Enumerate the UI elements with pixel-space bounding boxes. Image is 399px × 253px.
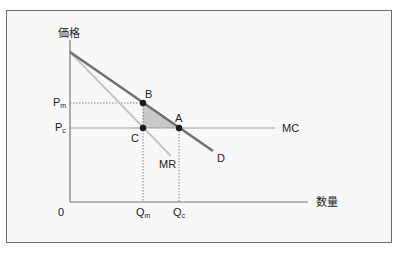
point-b [140, 100, 146, 106]
monopoly-diagram: B A C MC MR D 価格 数量 0 Pm Pc Qm Qc [0, 0, 399, 253]
point-a [176, 125, 182, 131]
label-point-b: B [145, 88, 152, 100]
label-mc: MC [282, 122, 299, 134]
label-point-c: C [131, 132, 139, 144]
x-axis-label: 数量 [316, 196, 338, 209]
y-axis-label: 価格 [58, 26, 80, 40]
label-pm: Pm [53, 96, 66, 109]
label-d: D [217, 152, 225, 164]
origin-label: 0 [58, 206, 64, 218]
point-c [140, 125, 146, 131]
label-pc: Pc [55, 121, 66, 134]
mr-curve [70, 52, 171, 156]
label-point-a: A [175, 112, 183, 124]
label-qm: Qm [136, 206, 151, 219]
label-mr: MR [159, 158, 176, 170]
label-qc: Qc [173, 206, 186, 219]
